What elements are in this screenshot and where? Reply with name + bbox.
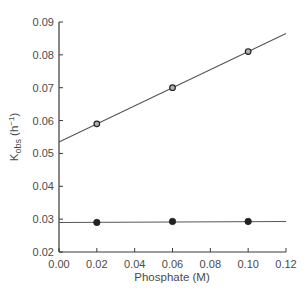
y-tick-label: 0.08	[33, 49, 54, 61]
y-axis-title: Kobs (h−1)	[7, 113, 23, 162]
filled-circle-marker	[169, 218, 175, 224]
x-tick-label: 0.12	[275, 258, 296, 270]
ticks: 0.000.020.040.060.080.100.120.020.030.04…	[33, 16, 297, 270]
axes	[59, 22, 286, 252]
y-tick-label: 0.06	[33, 115, 54, 127]
y-axis-title-subscript: obs	[13, 139, 23, 154]
x-tick-label: 0.04	[124, 258, 145, 270]
data-points	[94, 49, 252, 226]
x-tick-label: 0.08	[200, 258, 221, 270]
x-tick-label: 0.00	[48, 258, 69, 270]
chart: 0.000.020.040.060.080.100.120.020.030.04…	[0, 0, 308, 293]
open-circle-marker	[94, 121, 100, 127]
y-axis-title-unit: (h	[8, 126, 20, 139]
y-tick-label: 0.04	[33, 180, 54, 192]
y-axis-title-close: )	[8, 113, 20, 117]
open-circle-marker	[170, 85, 176, 91]
x-tick-label: 0.06	[162, 258, 183, 270]
y-tick-label: 0.09	[33, 16, 54, 28]
x-axis-title: Phosphate (M)	[134, 271, 210, 283]
x-tick-label: 0.10	[237, 258, 258, 270]
y-tick-label: 0.03	[33, 213, 54, 225]
x-tick-label: 0.02	[86, 258, 107, 270]
filled-circle-marker	[245, 218, 251, 224]
fit-lines	[59, 34, 286, 223]
y-tick-label: 0.02	[33, 246, 54, 258]
filled-circle-marker	[94, 219, 100, 225]
y-tick-label: 0.07	[33, 82, 54, 94]
open-circle-marker	[245, 49, 251, 55]
y-tick-label: 0.05	[33, 147, 54, 159]
